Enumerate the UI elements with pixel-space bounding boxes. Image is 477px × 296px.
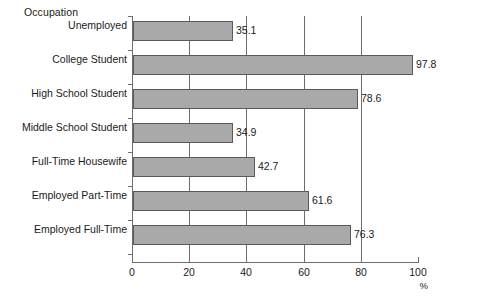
y-axis-tick	[128, 84, 133, 85]
plot-area: 35.1 97.8 78.6 34.9 42.7 61.6 76.3 0 20 …	[132, 16, 418, 262]
category-label: Middle School Student	[22, 121, 127, 133]
x-axis-tick	[304, 257, 305, 263]
x-axis-tick	[189, 257, 190, 263]
bar-value-label: 97.8	[416, 58, 436, 70]
category-label-column: Unemployed College Student High School S…	[0, 16, 127, 262]
category-label: Employed Part-Time	[32, 189, 127, 201]
x-axis-tick	[418, 257, 419, 263]
bar	[133, 157, 255, 177]
x-axis-tick-label: 60	[284, 266, 324, 278]
bar-chart: Occupation Unemployed College Student Hi…	[0, 0, 477, 296]
bar-value-label: 34.9	[236, 126, 256, 138]
bar	[133, 21, 233, 41]
bar-value-label: 76.3	[354, 228, 374, 240]
y-axis-tick	[128, 254, 133, 255]
x-axis-tick-label: 80	[341, 266, 381, 278]
x-axis-tick-label: 0	[112, 266, 152, 278]
x-axis-tick	[361, 257, 362, 263]
y-axis-tick	[128, 186, 133, 187]
gridline-80	[361, 16, 362, 262]
bar	[133, 191, 309, 211]
bar-value-label: 35.1	[236, 24, 256, 36]
x-axis-tick	[246, 257, 247, 263]
category-label: College Student	[52, 53, 127, 65]
x-axis-line	[132, 262, 419, 263]
bar	[133, 123, 233, 143]
category-label: Employed Full-Time	[34, 223, 127, 235]
y-axis-tick	[128, 50, 133, 51]
x-axis-tick-label: 40	[226, 266, 266, 278]
bar	[133, 89, 358, 109]
category-label: High School Student	[31, 87, 127, 99]
x-axis-tick-label: 20	[169, 266, 209, 278]
bar-value-label: 78.6	[361, 92, 381, 104]
category-label: Unemployed	[68, 19, 127, 31]
x-axis-tick	[132, 257, 133, 263]
y-axis-tick	[128, 220, 133, 221]
bar	[133, 55, 413, 75]
x-axis-tick-label: 100	[398, 266, 438, 278]
y-axis-tick	[128, 16, 133, 17]
y-axis-tick	[128, 152, 133, 153]
bar-value-label: 61.6	[312, 194, 332, 206]
x-axis-unit-label: %	[394, 280, 428, 291]
bar-value-label: 42.7	[258, 160, 278, 172]
y-axis-tick	[128, 118, 133, 119]
bar	[133, 225, 351, 245]
category-label: Full-Time Housewife	[32, 155, 127, 167]
